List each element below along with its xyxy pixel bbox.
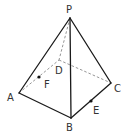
edge-PC [70, 18, 111, 83]
label-F: F [44, 79, 50, 90]
label-P: P [66, 4, 72, 15]
point-F-dot [37, 75, 40, 78]
label-D: D [55, 65, 63, 76]
label-C: C [114, 83, 121, 94]
pyramid-diagram: P A B C D F E [0, 0, 128, 139]
point-E-dot [89, 99, 92, 102]
edge-AB [19, 93, 71, 118]
edge-PD [59, 18, 70, 60]
label-B: B [66, 122, 73, 133]
label-A: A [7, 92, 14, 103]
edge-PB [70, 18, 71, 118]
label-E: E [93, 105, 99, 116]
